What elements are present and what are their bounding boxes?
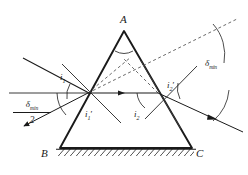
i2-subscript: 2 bbox=[137, 115, 140, 121]
fraction-numerator: δmin bbox=[13, 99, 51, 111]
delta-min-arc bbox=[213, 24, 229, 121]
apex-label-A: A bbox=[120, 14, 127, 25]
angle-label-i2-prime: i2′ bbox=[167, 81, 174, 92]
vertex-label-C: C bbox=[196, 148, 203, 159]
angle-arcs-entry bbox=[57, 84, 70, 115]
fraction-delta-subscript: min bbox=[30, 105, 38, 111]
figure-canvas bbox=[0, 0, 248, 175]
incident-ray bbox=[23, 58, 89, 93]
apex-angle-arc bbox=[115, 51, 133, 54]
normal-lines bbox=[62, 61, 197, 129]
angle-label-i1: i1 bbox=[60, 73, 66, 84]
delta-subscript: min bbox=[209, 64, 217, 70]
base-hatching bbox=[56, 149, 196, 156]
i1prime-mark: ′ bbox=[91, 109, 93, 119]
angle-label-i1-prime: i1′ bbox=[85, 110, 92, 121]
angle-label-i2: i2 bbox=[134, 110, 140, 121]
delta-min-label: δmin bbox=[205, 59, 217, 70]
delta-min-half-fraction: δmin 2 bbox=[13, 99, 51, 125]
internal-ray bbox=[88, 90, 158, 95]
i2prime-mark: ′ bbox=[173, 80, 175, 90]
fraction-denominator: 2 bbox=[13, 113, 51, 125]
prism-minimum-deviation-figure: A B C i1 i1′ i2 i2′ δmin δmin 2 bbox=[0, 0, 248, 175]
i1-subscript: 1 bbox=[63, 78, 66, 84]
vertex-label-B: B bbox=[41, 148, 48, 159]
